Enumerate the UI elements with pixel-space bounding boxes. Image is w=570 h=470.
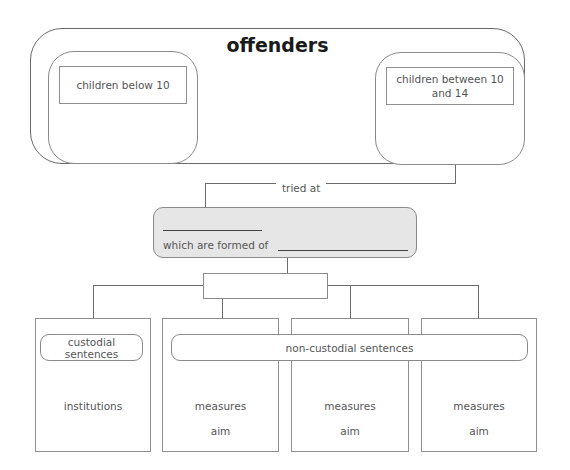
column-top-text: measures bbox=[163, 400, 278, 412]
non-custodial-sentences-pill: non-custodial sentences bbox=[171, 334, 528, 361]
column-top-text: measures bbox=[292, 400, 408, 412]
group-label: children below 10 bbox=[76, 78, 169, 92]
column-bottom-text: aim bbox=[422, 425, 536, 437]
custodial-sentences-pill: custodial sentences bbox=[40, 334, 143, 361]
branch-drop bbox=[350, 285, 351, 318]
label-box-children-below-10: children below 10 bbox=[59, 66, 187, 104]
non-custodial-label: non-custodial sentences bbox=[286, 342, 414, 354]
formed-of-label: which are formed of bbox=[163, 239, 268, 251]
sentences-blank-box[interactable] bbox=[203, 273, 328, 299]
custodial-label: custodial sentences bbox=[41, 336, 142, 360]
connector-line bbox=[205, 183, 456, 184]
connector-line bbox=[455, 165, 456, 184]
label-box-children-10-to-14: children between 10 and 14 bbox=[386, 67, 514, 105]
tried-at-label: tried at bbox=[276, 182, 326, 194]
column-bottom-text: aim bbox=[163, 425, 278, 437]
tried-at-label-wrap: tried at bbox=[276, 177, 326, 196]
blank-bottom-line[interactable] bbox=[278, 250, 408, 251]
group-label: children between 10 and 14 bbox=[391, 72, 509, 100]
blank-top-line[interactable] bbox=[163, 230, 262, 231]
court-box: which are formed of bbox=[153, 207, 417, 258]
branch-drop bbox=[222, 299, 223, 318]
branch-drop bbox=[93, 285, 94, 318]
branch-drop bbox=[478, 285, 479, 318]
column-bottom-text: aim bbox=[292, 425, 408, 437]
column-top-text: measures bbox=[422, 400, 536, 412]
connector-line bbox=[287, 258, 288, 273]
connector-line bbox=[205, 183, 206, 207]
branch-line bbox=[93, 285, 203, 286]
column-top-text: institutions bbox=[36, 400, 150, 412]
